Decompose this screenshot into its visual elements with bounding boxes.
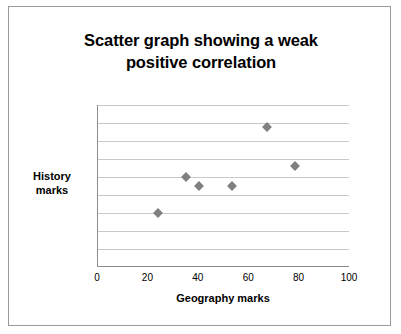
x-axis-tick-label: 80 xyxy=(284,272,314,283)
x-axis-tick-label: 20 xyxy=(132,272,162,283)
gridline xyxy=(98,177,349,178)
gridline xyxy=(98,231,349,232)
x-axis-tick-label: 60 xyxy=(233,272,263,283)
plot-area xyxy=(97,105,349,267)
gridline xyxy=(98,195,349,196)
chart-title-line-1: Scatter graph showing a weak xyxy=(29,29,373,51)
x-axis-tick-label: 100 xyxy=(334,272,364,283)
gridline xyxy=(98,159,349,160)
gridline xyxy=(98,105,349,106)
data-point xyxy=(227,181,237,191)
gridline xyxy=(98,123,349,124)
gridline xyxy=(98,249,349,250)
y-axis-label-line-2: marks xyxy=(21,184,83,198)
x-axis-tick-label: 0 xyxy=(82,272,112,283)
y-axis-label: History marks xyxy=(21,170,83,198)
chart-title: Scatter graph showing a weak positive co… xyxy=(29,29,373,74)
gridline xyxy=(98,213,349,214)
chart-title-line-2: positive correlation xyxy=(29,51,373,73)
x-axis-label: Geography marks xyxy=(97,292,349,304)
data-point xyxy=(181,172,191,182)
data-point xyxy=(194,181,204,191)
chart-container: Scatter graph showing a weak positive co… xyxy=(8,6,391,326)
y-axis-label-line-1: History xyxy=(21,170,83,184)
gridline xyxy=(98,141,349,142)
data-point xyxy=(154,208,164,218)
x-axis-tick-label: 40 xyxy=(183,272,213,283)
data-point xyxy=(290,161,300,171)
